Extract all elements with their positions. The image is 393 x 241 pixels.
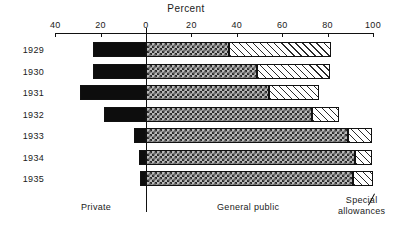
x-axis-tick-label: 80 <box>322 20 333 30</box>
bar-segment-special-allowances <box>348 128 372 143</box>
bar-segment-special-allowances <box>312 107 339 122</box>
bar-segment-general-public <box>146 107 312 122</box>
x-axis-tick <box>328 33 329 37</box>
bar-segment-general-public <box>146 85 269 100</box>
bar-segment-general-public <box>146 64 257 79</box>
stacked-bar-chart: Percent 4020020406080100 192919301931193… <box>0 0 393 241</box>
bar-segment-private <box>93 42 146 57</box>
bar-segment-private <box>104 107 146 122</box>
x-axis-tick <box>55 33 56 37</box>
category-label-general-public: General public <box>217 202 279 213</box>
x-axis-tick <box>101 33 102 37</box>
x-axis-line <box>55 33 373 34</box>
bar-row <box>0 42 393 57</box>
bar-segment-general-public <box>146 128 348 143</box>
bar-segment-private <box>139 150 146 165</box>
category-label-private: Private <box>81 202 111 213</box>
bar-segment-special-allowances <box>355 150 372 165</box>
bar-segment-private <box>134 128 146 143</box>
x-axis-tick-label: 60 <box>277 20 288 30</box>
bar-row <box>0 171 393 186</box>
bar-row <box>0 64 393 79</box>
x-axis-tick <box>373 33 374 37</box>
bar-segment-general-public <box>146 171 353 186</box>
special-label-line2: allowances <box>338 206 386 216</box>
bar-row <box>0 150 393 165</box>
x-axis-tick-label: 20 <box>95 20 106 30</box>
x-axis-tick <box>282 33 283 37</box>
x-axis-tick-label: 100 <box>365 20 381 30</box>
x-axis-title: Percent <box>167 3 204 14</box>
bar-segment-general-public <box>146 150 355 165</box>
bar-segment-general-public <box>146 42 229 57</box>
bar-segment-private <box>93 64 146 79</box>
bar-segment-special-allowances <box>269 85 319 100</box>
x-axis-tick <box>237 33 238 37</box>
bar-segment-special-allowances <box>229 42 331 57</box>
bar-row <box>0 128 393 143</box>
bar-row <box>0 107 393 122</box>
bar-segment-special-allowances <box>353 171 373 186</box>
bar-segment-special-allowances <box>257 64 330 79</box>
x-axis-tick-label: 40 <box>231 20 242 30</box>
x-axis-tick-label: 40 <box>50 20 61 30</box>
x-axis-tick <box>191 33 192 37</box>
bar-segment-private <box>80 85 146 100</box>
category-label-special-allowances: Special allowances <box>338 195 386 217</box>
x-axis-tick-label: 20 <box>186 20 197 30</box>
bar-row <box>0 85 393 100</box>
